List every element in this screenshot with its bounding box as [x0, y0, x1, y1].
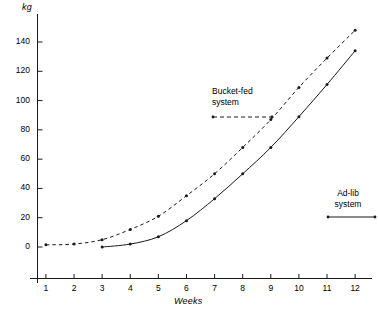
y-axis-ticks — [38, 42, 43, 247]
x-tick-label: 11 — [318, 283, 336, 293]
x-tick-label: 7 — [206, 283, 224, 293]
y-tick-label: 80 — [8, 124, 30, 134]
data-point-marker — [326, 57, 329, 60]
data-point-marker — [44, 243, 47, 246]
y-tick-label: 140 — [8, 36, 30, 46]
data-point-marker — [101, 246, 104, 249]
y-tick-label: 20 — [8, 212, 30, 222]
y-axis-title: kg — [22, 2, 32, 12]
data-point-marker — [213, 172, 216, 175]
x-axis-title: Weeks — [174, 296, 202, 306]
data-point-marker — [241, 172, 244, 175]
x-tick-label: 12 — [346, 283, 364, 293]
x-tick-label: 6 — [177, 283, 195, 293]
x-tick-label: 10 — [290, 283, 308, 293]
data-point-marker — [157, 215, 160, 218]
data-point-marker — [213, 197, 216, 200]
data-point-marker — [101, 238, 104, 241]
legend-dashed-sample-marker-end — [271, 116, 274, 119]
legend-dashed-sample-marker-start — [212, 116, 215, 119]
x-tick-label: 1 — [37, 283, 55, 293]
data-point-marker — [129, 228, 132, 231]
x-tick-label: 5 — [149, 283, 167, 293]
series-bucket-fed — [44, 29, 356, 247]
y-tick-label: 100 — [8, 95, 30, 105]
legend-solid-sample-marker-start — [327, 216, 330, 219]
y-tick-label: 120 — [8, 65, 30, 75]
data-point-marker — [297, 115, 300, 118]
y-tick-label: 40 — [8, 182, 30, 192]
legend-ad-lib: Ad-lib system — [320, 188, 376, 210]
data-series-group — [44, 29, 356, 249]
x-tick-label: 3 — [93, 283, 111, 293]
x-tick-label: 9 — [262, 283, 280, 293]
legend-bucket-fed-line2: system — [212, 97, 253, 108]
x-tick-label: 8 — [234, 283, 252, 293]
legend-bucket-fed-line1: Bucket-fed — [212, 86, 253, 97]
series-ad-lib — [101, 49, 357, 248]
legend-ad-lib-line2: system — [320, 199, 376, 210]
data-point-marker — [185, 194, 188, 197]
growth-chart: kg Weeks 020406080100120140 123456789101… — [0, 0, 378, 312]
legend-bucket-fed: Bucket-fed system — [212, 86, 253, 108]
data-point-marker — [129, 243, 132, 246]
data-point-marker — [269, 118, 272, 121]
data-point-marker — [326, 83, 329, 86]
legend-ad-lib-line1: Ad-lib — [320, 188, 376, 199]
data-point-marker — [297, 86, 300, 89]
data-point-marker — [185, 219, 188, 222]
data-point-marker — [269, 146, 272, 149]
y-tick-label: 0 — [8, 241, 30, 251]
series-line — [46, 30, 355, 245]
x-tick-label: 4 — [121, 283, 139, 293]
plot-area — [0, 0, 378, 312]
x-tick-label: 2 — [65, 283, 83, 293]
axes — [30, 14, 372, 283]
data-point-marker — [354, 29, 357, 32]
data-point-marker — [354, 49, 357, 52]
data-point-marker — [157, 235, 160, 238]
data-point-marker — [73, 243, 76, 246]
legend-solid-sample-marker-end — [374, 216, 377, 219]
y-tick-label: 60 — [8, 153, 30, 163]
series-line — [102, 51, 355, 247]
data-point-marker — [241, 146, 244, 149]
